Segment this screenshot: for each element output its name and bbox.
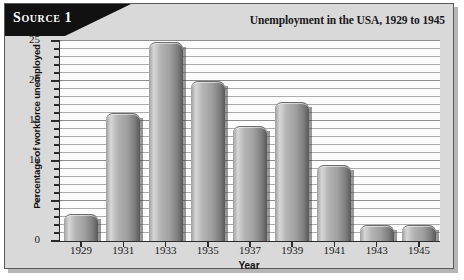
y-tick-minor: [54, 72, 60, 74]
bar-1945: [402, 225, 436, 241]
bar-1941: [317, 165, 351, 241]
y-tick-major: 0: [51, 240, 60, 242]
x-tick-label-1933: 1933: [144, 244, 188, 256]
bar-1943: [360, 225, 394, 241]
bar-1939: [275, 102, 309, 241]
y-tick-label: 10: [29, 153, 40, 165]
y-tick-minor: [54, 112, 60, 114]
x-tick-label-1941: 1941: [312, 244, 356, 256]
x-tick-label-1935: 1935: [186, 244, 230, 256]
chart-title: Unemployment in the USA, 1929 to 1945: [135, 14, 445, 26]
x-tick-label-1929: 1929: [59, 244, 103, 256]
gridline-major: [60, 40, 440, 41]
gridline-minor: [60, 96, 440, 97]
gridline-minor: [60, 48, 440, 49]
x-tick-label-1931: 1931: [101, 244, 145, 256]
y-tick-minor: [54, 152, 60, 154]
y-tick-minor: [54, 208, 60, 210]
x-tick-label-1939: 1939: [270, 244, 314, 256]
y-tick-minor: [54, 144, 60, 146]
y-tick-minor: [54, 176, 60, 178]
y-tick-minor: [54, 104, 60, 106]
y-tick-minor: [54, 96, 60, 98]
y-tick-major: 20: [51, 80, 60, 82]
y-tick-minor: [54, 48, 60, 50]
y-tick-major: 10: [51, 160, 60, 162]
source-banner-label: Source 1: [13, 10, 72, 26]
gridline-minor: [60, 72, 440, 73]
y-tick-minor: [54, 232, 60, 234]
y-tick-minor: [54, 192, 60, 194]
y-tick-label: 20: [29, 73, 40, 85]
bar-1935: [191, 81, 225, 241]
bar-1931: [106, 113, 140, 241]
y-tick-minor: [54, 128, 60, 130]
x-axis-label: Year: [59, 260, 439, 271]
bar-1929: [64, 214, 98, 241]
gridline-minor: [60, 56, 440, 57]
bar-1933: [149, 42, 183, 241]
y-tick-minor: [54, 88, 60, 90]
x-tick-label-1945: 1945: [397, 244, 441, 256]
y-tick-label: 0: [35, 233, 41, 245]
chart-panel: Source 1 Unemployment in the USA, 1929 t…: [4, 3, 454, 269]
gridline-minor: [60, 88, 440, 89]
plot-area: 0510152025 19291931193319351937193919411…: [59, 41, 440, 242]
y-tick-label: 15: [29, 113, 40, 125]
y-tick-minor: [54, 168, 60, 170]
y-tick-major: 15: [51, 120, 60, 122]
x-tick-label-1937: 1937: [228, 244, 272, 256]
gridline-major: [60, 80, 440, 81]
x-tick-label-1943: 1943: [355, 244, 399, 256]
y-tick-minor: [54, 136, 60, 138]
source-figure: Source 1 Unemployment in the USA, 1929 t…: [0, 0, 464, 280]
y-tick-label: 5: [35, 193, 41, 205]
y-tick-major: 25: [51, 40, 60, 42]
y-tick-major: 5: [51, 200, 60, 202]
y-tick-minor: [54, 64, 60, 66]
gridline-minor: [60, 64, 440, 65]
y-tick-minor: [54, 224, 60, 226]
bar-1937: [233, 126, 267, 241]
y-tick-minor: [54, 216, 60, 218]
y-tick-minor: [54, 56, 60, 58]
gridline-minor: [60, 104, 440, 105]
y-tick-minor: [54, 184, 60, 186]
